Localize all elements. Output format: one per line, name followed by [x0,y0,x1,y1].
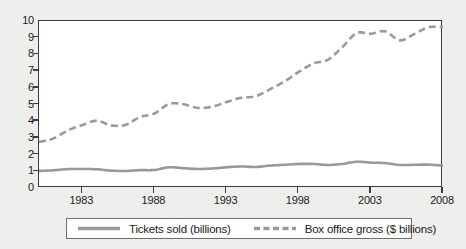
x-axis: 198319881993199820032008 [0,187,466,213]
legend-label-tickets-sold: Tickets sold (billions) [129,223,231,235]
x-tick-label: 1998 [275,194,321,206]
y-tick-label: 2 [0,149,34,159]
plot-svg [39,21,443,188]
chart-legend: Tickets sold (billions) Box office gross… [66,218,412,239]
x-tick-mark [81,187,83,193]
x-tick-label: 2003 [347,194,393,206]
plot-area [38,20,442,187]
x-tick-mark [441,187,443,193]
y-tick-label: 3 [0,132,34,142]
legend-entry-tickets-sold: Tickets sold (billions) [77,223,231,235]
y-tick-label: 6 [0,82,34,92]
y-tick-label: 4 [0,115,34,125]
x-tick-mark [153,187,155,193]
x-tick-mark [225,187,227,193]
y-tick-label: 9 [0,32,34,42]
x-tick-label: 1983 [58,194,104,206]
y-tick-label: 5 [0,99,34,109]
y-tick-label: 7 [0,65,34,75]
legend-swatch-solid-line [77,223,121,234]
x-tick-label: 1988 [130,194,176,206]
y-axis: 012345678910 [0,0,34,207]
x-tick-mark [369,187,371,193]
series-tickets-sold [39,162,443,171]
y-tick-label: 1 [0,165,34,175]
legend-swatch-dashed-line [253,223,297,234]
x-tick-label: 1993 [203,194,249,206]
series-box-office-gross [39,27,443,142]
x-tick-mark [297,187,299,193]
x-tick-label: 2008 [419,194,465,206]
y-tick-label: 10 [0,15,34,25]
legend-label-box-office-gross: Box office gross ($ billions) [305,223,436,235]
y-tick-label: 8 [0,48,34,58]
movie-industry-line-chart: 012345678910 198319881993199820032008 Ti… [0,0,466,249]
legend-entry-box-office-gross: Box office gross ($ billions) [253,223,436,235]
